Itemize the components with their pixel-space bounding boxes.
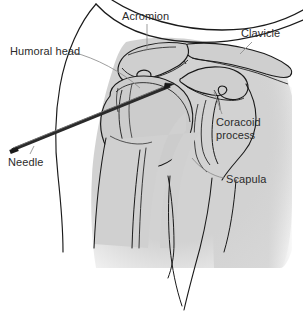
label-coracoid-process-line2: process bbox=[216, 129, 255, 141]
label-coracoid-process: Coracoid process bbox=[216, 116, 286, 142]
label-humoral-head: Humoral head bbox=[10, 45, 80, 58]
label-scapula: Scapula bbox=[226, 173, 266, 186]
needle-hub-end bbox=[10, 149, 18, 152]
label-needle: Needle bbox=[8, 156, 43, 169]
label-coracoid-process-line1: Coracoid bbox=[216, 116, 261, 128]
label-clavicle: Clavicle bbox=[241, 27, 280, 40]
shoulder-anatomy-figure: Acromion Clavicle Humoral head Coracoid … bbox=[0, 0, 303, 319]
label-acromion: Acromion bbox=[122, 10, 169, 23]
leader-line-needle bbox=[30, 146, 34, 154]
